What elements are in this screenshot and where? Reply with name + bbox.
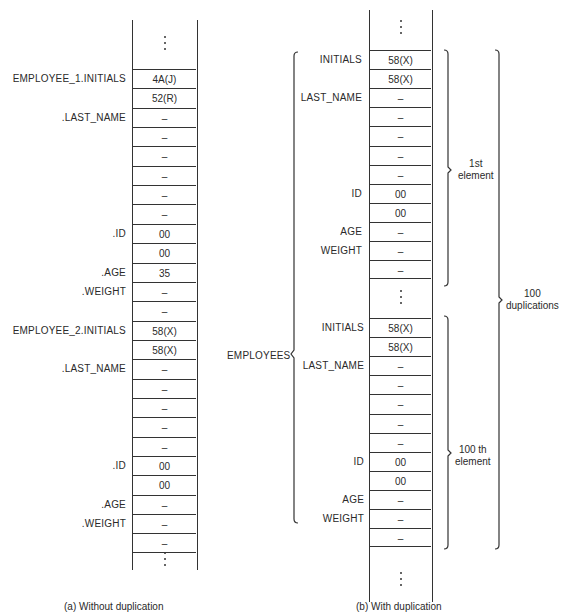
last-element-label: 100 th element — [455, 444, 491, 468]
first-element-brace-icon — [444, 50, 451, 286]
employees-brace-icon — [291, 52, 298, 523]
brace-lines — [0, 0, 569, 614]
caption-b: (b) With duplication — [356, 601, 442, 612]
last-element-brace-icon — [444, 316, 451, 549]
first-element-label: 1st element — [458, 158, 494, 182]
duplications-label: 100 duplications — [506, 288, 559, 312]
duplications-brace-icon — [495, 50, 502, 549]
